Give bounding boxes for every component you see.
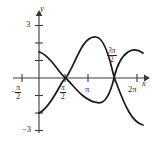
x-tick-label-neg-half-pi: −π2 (11, 84, 21, 100)
x-tick-label-pi: π (85, 85, 89, 94)
graph-canvas (0, 0, 152, 143)
curve-b-path (39, 37, 143, 125)
trig-graph-figure: x y 3 −3 −π2 π2 π 3π2 2π (0, 0, 152, 143)
x-tick-label-half-pi: π2 (60, 84, 66, 100)
y-axis-label: y (40, 4, 44, 13)
neg-half-pi-denominator: 2 (15, 93, 21, 101)
three-half-pi-denominator: 2 (107, 56, 117, 64)
x-tick-label-two-pi: 2π (128, 85, 137, 94)
x-axis-label: x (142, 79, 146, 88)
half-pi-denominator: 2 (60, 93, 66, 101)
x-tick-label-three-half-pi: 3π2 (107, 47, 117, 63)
y-tick-label-neg-3: −3 (22, 125, 31, 134)
y-tick-label-3: 3 (26, 20, 30, 29)
